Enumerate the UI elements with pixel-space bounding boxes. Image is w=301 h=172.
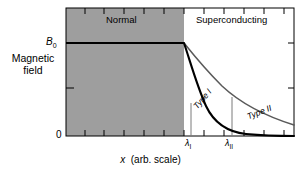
b0-subscript: 0 — [53, 42, 57, 49]
plot-canvas — [0, 0, 301, 172]
superconducting-region-label: Superconducting — [196, 15, 267, 25]
y-tick-label-b0: B0 — [46, 37, 57, 49]
x-axis-label: x (arb. scale) — [0, 155, 301, 165]
normal-region-label: Normal — [106, 15, 137, 25]
superconducting-region-shading — [184, 8, 294, 136]
lambda1-subscript: I — [189, 143, 191, 150]
normal-region-shading — [66, 8, 184, 136]
lambda2-subscript: II — [229, 143, 233, 150]
y-tick-label-zero: 0 — [56, 130, 62, 140]
y-axis-label-line2: field — [23, 64, 42, 76]
x-axis-symbol: x — [120, 154, 125, 165]
figure-container: Magnetic field B0 0 Normal Superconducti… — [0, 0, 301, 172]
y-axis-label: Magnetic field — [4, 52, 62, 76]
b0-symbol: B — [46, 36, 53, 47]
y-axis-label-line1: Magnetic — [12, 52, 55, 64]
x-axis-units: (arb. scale) — [131, 154, 181, 165]
x-tick-label-lambda1: λI — [185, 139, 191, 150]
x-tick-label-lambda2: λII — [225, 139, 233, 150]
